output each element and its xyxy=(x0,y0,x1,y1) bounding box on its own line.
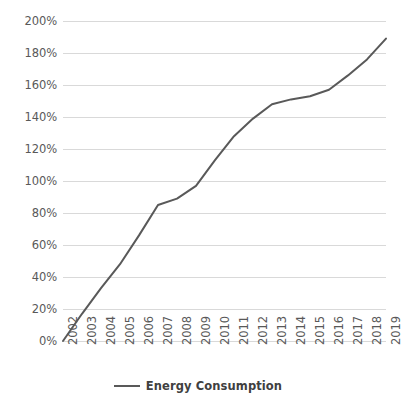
chart-title xyxy=(0,0,396,3)
y-axis-tick-label: 180% xyxy=(3,47,57,59)
x-axis-tick-text: 2015 xyxy=(314,316,326,345)
x-axis-tick-text: 2004 xyxy=(105,316,117,345)
x-axis-tick-text: 2005 xyxy=(124,316,136,345)
x-axis-tick-text: 2016 xyxy=(333,316,345,345)
legend-label-energy-consumption: Energy Consumption xyxy=(146,379,282,393)
x-axis-tick-text: 2010 xyxy=(219,316,231,345)
chart-legend: Energy Consumption xyxy=(0,378,396,394)
y-axis-tick-label: 120% xyxy=(3,143,57,155)
x-axis-tick-text: 2018 xyxy=(371,316,383,345)
y-axis-tick-label: 100% xyxy=(3,175,57,187)
x-axis-tick-text: 2013 xyxy=(276,316,288,345)
x-axis-tick-text: 2014 xyxy=(295,316,307,345)
y-axis-tick-label: 160% xyxy=(3,79,57,91)
y-axis-tick-label: 140% xyxy=(3,111,57,123)
y-axis-tick-label: 80% xyxy=(3,207,57,219)
y-axis-tick-label: 200% xyxy=(3,15,57,27)
y-axis-tick-label: 40% xyxy=(3,271,57,283)
x-axis-tick-text: 2012 xyxy=(257,316,269,345)
x-axis-tick-text: 2019 xyxy=(390,316,402,345)
plot-area xyxy=(63,21,386,341)
x-axis-tick-text: 2008 xyxy=(181,316,193,345)
x-axis-tick-text: 2017 xyxy=(352,316,364,345)
series-energy-consumption xyxy=(63,21,386,341)
x-axis-tick-text: 2003 xyxy=(86,316,98,345)
series-line-energy-consumption xyxy=(63,39,386,341)
x-axis-tick-text: 2009 xyxy=(200,316,212,345)
y-axis-tick-label: 60% xyxy=(3,239,57,251)
x-axis-tick-text: 2011 xyxy=(238,316,250,345)
x-axis-tick-text: 2002 xyxy=(67,316,79,345)
y-axis-tick-label: 20% xyxy=(3,303,57,315)
x-axis-tick-text: 2007 xyxy=(162,316,174,345)
legend-swatch-energy-consumption xyxy=(114,385,140,387)
x-axis-tick-text: 2006 xyxy=(143,316,155,345)
